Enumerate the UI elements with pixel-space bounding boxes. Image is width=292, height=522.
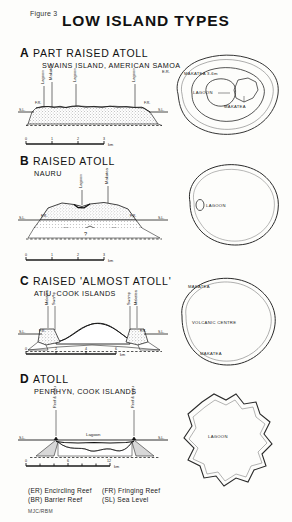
svg-text:2: 2: [55, 347, 57, 351]
panel-d-letter: D: [20, 372, 29, 386]
svg-text:E.R.: E.R.: [162, 69, 170, 74]
svg-text:F.R.: F.R.: [130, 214, 136, 218]
svg-text:S.L.: S.L.: [19, 330, 25, 334]
svg-text:0: 0: [25, 459, 27, 463]
legend-abbr-fr: (FR): [102, 487, 116, 494]
svg-text:km: km: [114, 465, 119, 469]
svg-text:0: 0: [25, 137, 27, 141]
svg-text:2: 2: [77, 253, 79, 257]
panel-c-map: MAKATEA VOLCANIC CENTRE MAKATEA: [170, 272, 290, 372]
legend-entry-fr: (FR) Fringing Reef: [102, 486, 176, 495]
panel-b-subtitle: NAURU: [34, 169, 62, 178]
svg-text:F.R.: F.R.: [35, 101, 41, 105]
svg-text:MAKATEA: MAKATEA: [188, 284, 210, 289]
svg-text:S.L.: S.L.: [19, 108, 25, 112]
panel-d-cross-section: Reef & motu Reef & motu Lagoon S.L. S.L.: [18, 396, 170, 462]
panel-d-title: ATOLL: [33, 373, 69, 385]
svg-text:Swamp: Swamp: [51, 292, 56, 305]
svg-text:F.R.: F.R.: [140, 329, 146, 333]
panel-b-map: LAGOON: [176, 158, 288, 250]
panel-b-letter: B: [20, 154, 29, 168]
svg-text:Lagoon: Lagoon: [131, 68, 136, 82]
panel-b-scale: 0 1 2 3 km: [24, 252, 134, 266]
panel-c-title: RAISED 'ALMOST ATOLL': [33, 275, 171, 287]
svg-text:0: 0: [25, 347, 27, 351]
panel-b-cross-section: Lagoon Makatea F.R. F.R. S.L. S.L. ?: [18, 178, 170, 250]
legend-text-sl: Sea Level: [117, 496, 148, 503]
svg-text:1: 1: [51, 137, 53, 141]
figure-page: Figure 3 LOW ISLAND TYPES A PART RAISED …: [0, 0, 292, 522]
legend-abbr-br: (BR): [28, 496, 42, 503]
panel-a-title: PART RAISED ATOLL: [33, 47, 148, 59]
figure-credit: MJC/RBM: [28, 508, 53, 514]
legend-abbr-sl: (SL): [102, 496, 115, 503]
legend-text-fr: Fringing Reef: [118, 487, 160, 494]
svg-text:VOLCANIC CENTRE: VOLCANIC CENTRE: [192, 320, 236, 325]
svg-text:2: 2: [77, 137, 79, 141]
legend-text-er: Encircling Reef: [44, 487, 91, 494]
svg-text:km: km: [108, 143, 113, 147]
legend-row: (ER) Encircling Reef (FR) Fringing Reef: [28, 486, 176, 495]
legend: (ER) Encircling Reef (FR) Fringing Reef …: [28, 486, 176, 504]
svg-text:MAKATEA: MAKATEA: [224, 104, 246, 109]
svg-text:3: 3: [103, 253, 105, 257]
svg-text:km: km: [108, 259, 113, 263]
legend-entry-br: (BR) Barrier Reef: [28, 495, 102, 504]
svg-text:1: 1: [51, 253, 53, 257]
svg-text:6: 6: [115, 347, 117, 351]
svg-text:Lagoon: Lagoon: [78, 174, 83, 188]
svg-text:LAGOON: LAGOON: [193, 90, 213, 95]
svg-text:Makatea: Makatea: [133, 289, 138, 305]
svg-text:Lagoon: Lagoon: [72, 68, 77, 82]
svg-text:Makatea: Makatea: [48, 64, 53, 80]
svg-text:S.L.: S.L.: [158, 330, 164, 334]
figure-number: Figure 3: [30, 10, 57, 17]
panel-a-scale: 0 1 2 3 km: [24, 136, 134, 150]
svg-text:Lagoon: Lagoon: [86, 432, 101, 437]
svg-text:3: 3: [103, 137, 105, 141]
legend-text-br: Barrier Reef: [44, 496, 82, 503]
svg-text:S.L.: S.L.: [19, 216, 25, 220]
legend-abbr-er: (ER): [28, 487, 42, 494]
svg-text:Reef & motu: Reef & motu: [52, 386, 57, 408]
svg-text:Swamp: Swamp: [126, 292, 131, 305]
svg-text:F.R.: F.R.: [41, 214, 47, 218]
svg-text:Lagoon: Lagoon: [40, 70, 45, 84]
panel-d-scale: 0 6 12 km: [24, 458, 139, 472]
panel-b-title: RAISED ATOLL: [33, 155, 115, 167]
panel-c-scale: 0 2 4 6 km: [24, 346, 139, 360]
panel-a-cross-section: Lagoon Makatea Lagoon Lagoon F.R. F.R. S…: [18, 72, 170, 134]
svg-text:S.L.: S.L.: [158, 216, 164, 220]
legend-entry-er: (ER) Encircling Reef: [28, 486, 102, 495]
legend-entry-sl: (SL) Sea Level: [102, 495, 176, 504]
panel-d-subtitle: PENRHYN, COOK ISLANDS: [34, 387, 137, 396]
svg-text:LAGOON: LAGOON: [206, 203, 226, 208]
svg-text:MAKATEA: MAKATEA: [200, 351, 222, 356]
svg-text:?: ?: [84, 231, 87, 237]
svg-text:F.R.: F.R.: [144, 101, 150, 105]
svg-text:6: 6: [67, 459, 69, 463]
svg-text:F.R.: F.R.: [39, 329, 45, 333]
svg-text:Makatea: Makatea: [104, 168, 109, 184]
svg-text:0: 0: [25, 253, 27, 257]
svg-text:S.L.: S.L.: [158, 436, 164, 440]
svg-text:Reef & motu: Reef & motu: [130, 386, 135, 408]
svg-text:km: km: [120, 353, 125, 357]
svg-text:4: 4: [85, 347, 87, 351]
panel-a-letter: A: [20, 46, 29, 60]
svg-text:MAKATEA 3-6m: MAKATEA 3-6m: [184, 71, 218, 76]
panel-a-map: E.R. MAKATEA 3-6m LAGOON MAKATEA: [160, 48, 288, 140]
svg-text:Makatea: Makatea: [44, 289, 49, 305]
panel-d-map: LAGOON: [172, 386, 292, 498]
legend-row: (BR) Barrier Reef (SL) Sea Level: [28, 495, 176, 504]
panel-c-letter: C: [20, 274, 29, 288]
svg-text:S.L.: S.L.: [19, 436, 25, 440]
svg-text:12: 12: [107, 459, 111, 463]
figure-title: LOW ISLAND TYPES: [62, 12, 230, 30]
svg-text:LAGOON: LAGOON: [208, 434, 228, 439]
